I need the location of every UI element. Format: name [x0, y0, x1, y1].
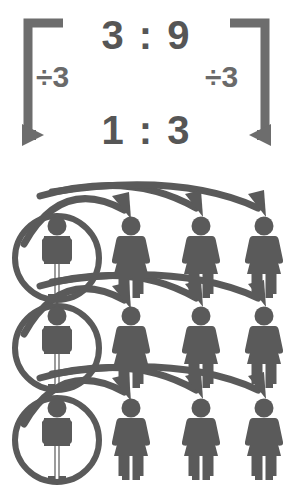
row-3-female-figure-3 — [245, 399, 283, 481]
diagram-canvas: 3 : 9 ÷3 ÷3 1 : 3 — [0, 0, 293, 492]
row-2-female-figure-1 — [112, 307, 150, 389]
ratio-simplification-panel: 3 : 9 ÷3 ÷3 1 : 3 — [0, 0, 293, 170]
row-3-female-figure-1 — [112, 399, 150, 481]
people-pictogram-svg — [0, 170, 293, 492]
simplified-ratio-text: 1 : 3 — [0, 108, 293, 152]
row-3 — [15, 398, 283, 482]
people-pictogram-panel — [0, 170, 293, 492]
row-2 — [15, 306, 283, 390]
left-divide-label: ÷3 — [36, 60, 69, 94]
row-1 — [15, 216, 283, 300]
right-divide-label: ÷3 — [205, 60, 238, 94]
row-3-female-figure-2 — [182, 399, 220, 481]
original-ratio-text: 3 : 9 — [0, 13, 293, 57]
row-3-male-figure — [42, 399, 72, 481]
